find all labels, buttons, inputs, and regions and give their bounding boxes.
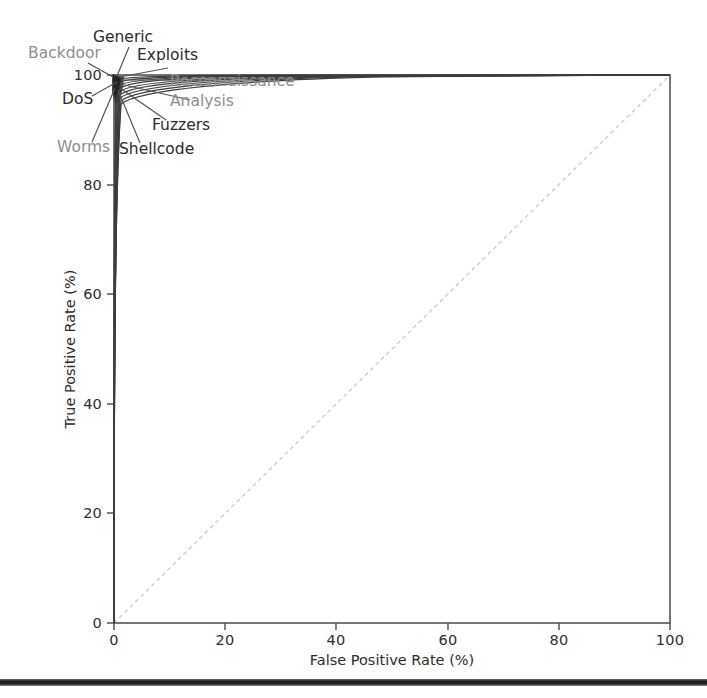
annotation-label-shellcode: Shellcode bbox=[119, 142, 194, 158]
leader-shellcode bbox=[118, 90, 140, 143]
annotation-label-fuzzers: Fuzzers bbox=[152, 118, 210, 134]
annotation-label-worms: Worms bbox=[57, 140, 110, 156]
annotation-label-dos: DoS bbox=[62, 92, 93, 108]
annotation-label-analysis: Analysis bbox=[170, 94, 234, 110]
x-tick-label-0: 0 bbox=[109, 632, 118, 648]
annotation-label-generic: Generic bbox=[93, 30, 153, 46]
x-tick-label-40: 40 bbox=[327, 632, 346, 648]
annotation-label-reconnaissance: Reconnaissance bbox=[170, 74, 295, 90]
y-axis-title: True Positive Rate (%) bbox=[62, 270, 78, 429]
roc-curve-figure: 0 20 40 60 80 100 0 20 40 60 80 100 Fals… bbox=[0, 0, 707, 698]
annotation-label-exploits: Exploits bbox=[137, 48, 198, 64]
x-tick-label-60: 60 bbox=[439, 632, 458, 648]
x-tick-label-80: 80 bbox=[550, 632, 569, 648]
leader-worms bbox=[92, 88, 115, 142]
x-tick-marks bbox=[114, 623, 670, 630]
y-tick-label-100: 100 bbox=[72, 67, 102, 83]
y-tick-marks bbox=[107, 75, 114, 623]
plot-canvas bbox=[0, 0, 707, 698]
leader-generic bbox=[117, 47, 129, 76]
annotation-label-backdoor: Backdoor bbox=[28, 46, 101, 62]
x-tick-label-100: 100 bbox=[656, 632, 684, 648]
x-axis-title: False Positive Rate (%) bbox=[310, 652, 474, 668]
scan-edge-bar bbox=[0, 679, 707, 686]
chance-diagonal-line bbox=[114, 75, 670, 623]
y-tick-label-20: 20 bbox=[72, 505, 102, 521]
y-tick-label-0: 0 bbox=[72, 615, 102, 631]
y-tick-label-80: 80 bbox=[72, 177, 102, 193]
x-tick-label-20: 20 bbox=[216, 632, 235, 648]
